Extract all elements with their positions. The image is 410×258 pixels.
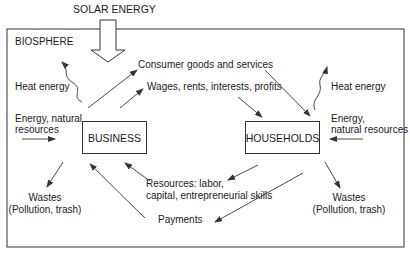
right-wastes-label: Wastes (Pollution, trash) (312, 192, 386, 216)
business-node: BUSINESS (82, 121, 147, 154)
payments-to-business-arrow-icon (90, 164, 145, 218)
wages-to-households-arrow-icon (238, 97, 262, 117)
left-energy-line2: resources (15, 124, 59, 136)
households-to-resources-arrow-icon (228, 165, 258, 180)
right-wastes-line2: (Pollution, trash) (312, 204, 386, 216)
business-label: BUSINESS (88, 132, 141, 144)
payments-label: Payments (158, 214, 202, 226)
resources-line1: Resources: labor, (146, 178, 224, 190)
solar-energy-title: SOLAR ENERGY (73, 3, 156, 15)
consumer-goods-to-households-arrow-icon (265, 70, 310, 116)
households-node: HOUSEHOLDS (245, 121, 320, 154)
left-heat-label: Heat energy (15, 81, 69, 93)
right-wastes-arrow-icon (325, 162, 340, 188)
wages-label: Wages, rents, interests, profits (147, 81, 282, 93)
right-heat-wavy-arrow-icon (314, 67, 327, 110)
left-wastes-arrow-icon (47, 162, 63, 187)
households-label: HOUSEHOLDS (246, 132, 320, 144)
right-energy-line2: natural resources (331, 124, 408, 136)
left-wastes-label: Wastes (Pollution, trash) (8, 192, 82, 216)
biosphere-label: BIOSPHERE (15, 36, 73, 48)
right-wastes-line1: Wastes (312, 192, 386, 204)
consumer-goods-arrow-icon (88, 70, 137, 108)
resources-line2: capital, entrepreneurial skills (146, 190, 272, 202)
consumer-goods-label: Consumer goods and services (138, 59, 273, 71)
left-wastes-line2: (Pollution, trash) (8, 204, 82, 216)
wages-arrow-left-icon (120, 89, 143, 108)
right-heat-label: Heat energy (331, 81, 385, 93)
solar-energy-arrow-icon (91, 20, 125, 62)
left-wastes-line1: Wastes (8, 192, 82, 204)
